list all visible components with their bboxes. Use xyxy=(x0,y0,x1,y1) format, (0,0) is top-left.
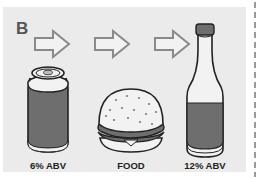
food-label: FOOD xyxy=(101,160,161,171)
beer-can-icon xyxy=(24,62,72,157)
panel-divider xyxy=(254,2,256,177)
diagram-panel: B xyxy=(3,7,246,172)
can-abv-label: 6% ABV xyxy=(18,160,78,171)
beer-bottle-icon xyxy=(183,21,227,161)
arrow-right-icon xyxy=(33,29,73,59)
arrow-right-icon xyxy=(93,29,133,59)
bottle-abv-label: 12% ABV xyxy=(175,160,235,171)
hamburger-icon xyxy=(94,86,168,158)
panel-label: B xyxy=(16,19,28,39)
